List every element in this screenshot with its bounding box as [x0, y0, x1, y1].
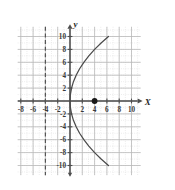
x-tick-label: 8: [117, 106, 121, 114]
y-tick-label: 8: [62, 46, 66, 54]
x-axis-label: X: [144, 97, 152, 107]
x-tick-label: 6: [105, 106, 109, 114]
y-tick-label: 10: [59, 33, 67, 41]
coordinate-plane-svg: -8-6-4-2246810-10-8-6-4-2246810 X y: [0, 0, 175, 190]
y-tick-label: -2: [60, 111, 66, 119]
y-tick-label: -8: [60, 149, 66, 157]
parabola-graph: -8-6-4-2246810-10-8-6-4-2246810 X y: [0, 0, 175, 190]
x-tick-label: 2: [81, 106, 85, 114]
y-tick-label: -6: [60, 136, 66, 144]
x-tick-label: -6: [30, 106, 36, 114]
x-tick-label: 10: [128, 106, 136, 114]
y-tick-label: 6: [62, 59, 66, 67]
y-tick-label: -4: [60, 123, 66, 131]
x-tick-label: -8: [18, 106, 24, 114]
focus-point: [92, 98, 98, 104]
y-tick-label: 4: [62, 72, 66, 80]
y-tick-label: 2: [62, 85, 66, 93]
x-tick-label: 4: [93, 106, 97, 114]
plot-background: [0, 0, 175, 190]
y-tick-label: -10: [56, 162, 66, 170]
